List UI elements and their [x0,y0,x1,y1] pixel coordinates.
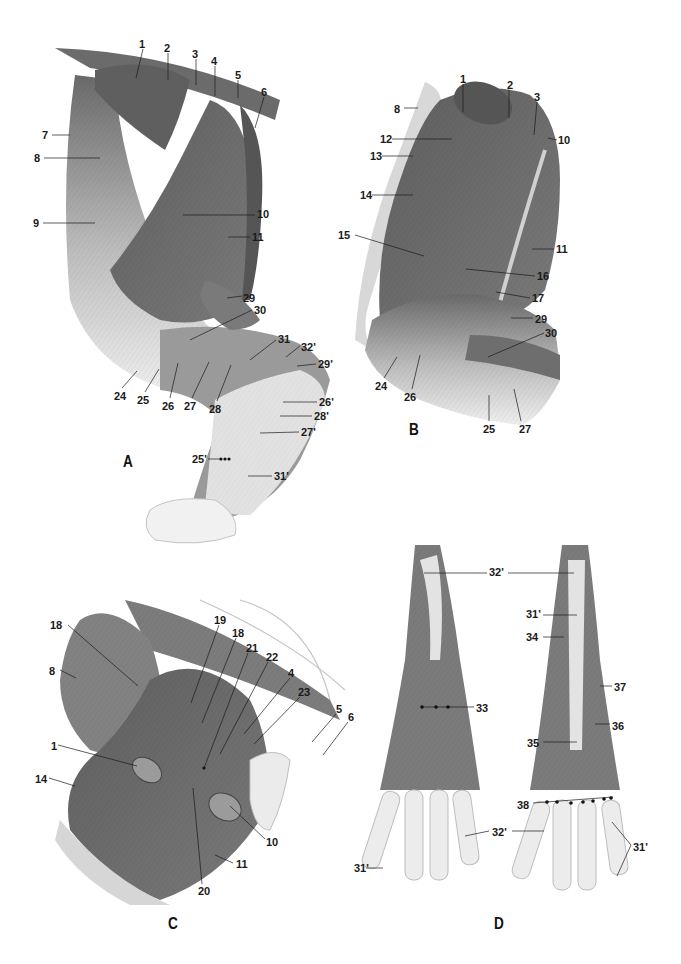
label-panel-a-6: 6 [261,86,267,98]
label-panel-b-13: 13 [370,150,382,162]
label-panel-a-9: 9 [33,217,39,229]
label-panel-d-36: 36 [612,720,624,732]
label-panel-a-31p: 31' [274,470,289,482]
label-panel-d-38: 38 [517,799,529,811]
label-panel-a-5: 5 [235,69,241,81]
panel-letter-b: B [409,420,419,440]
label-panel-c-18: 18 [50,619,62,631]
label-panel-a-7: 7 [42,129,48,141]
label-panel-a-25p: 25' [192,453,207,465]
label-panel-c-21: 21 [246,642,258,654]
label-panel-c-14: 14 [35,773,47,785]
panel-letter-d: D [494,914,504,934]
panel-d-illustration [360,545,629,890]
label-panel-c-5: 5 [336,703,342,715]
label-panel-b-26: 26 [404,391,416,403]
label-panel-a-31: 31 [278,333,290,345]
label-panel-a-26: 26 [162,400,174,412]
label-panel-c-22: 22 [266,651,278,663]
label-panel-d-31p: 31' [633,841,648,853]
panel-letter-a: A [123,452,133,472]
label-panel-b-17: 17 [532,292,544,304]
label-panel-a-30: 30 [254,304,266,316]
label-panel-b-29: 29 [535,313,547,325]
label-panel-b-30: 30 [545,327,557,339]
label-panel-a-32p: 32' [301,341,316,353]
label-panel-a-29: 29 [243,292,255,304]
label-panel-c-1: 1 [51,740,57,752]
label-panel-b-24: 24 [375,380,387,392]
label-panel-a-24: 24 [114,390,126,402]
muscle-illustrations [0,0,681,964]
label-panel-a-8: 8 [34,152,40,164]
label-panel-d-32p: 32' [489,566,504,578]
label-panel-a-1: 1 [139,38,145,50]
label-panel-c-4: 4 [288,667,294,679]
anatomical-figure: 123456789101129303132'29'242526272826'28… [0,0,681,964]
label-panel-d-31p: 31' [354,862,369,874]
label-panel-a-11: 11 [252,231,264,243]
label-panel-a-28: 28 [209,403,221,415]
label-panel-b-11: 11 [556,243,568,255]
label-panel-b-1: 1 [460,73,466,85]
label-panel-c-23: 23 [298,686,310,698]
label-panel-c-18: 18 [232,627,244,639]
label-panel-a-4: 4 [211,55,217,67]
label-panel-b-15: 15 [338,229,350,241]
label-panel-c-10: 10 [266,836,278,848]
label-panel-c-20: 20 [198,885,210,897]
label-panel-a-27: 27 [184,400,196,412]
label-panel-c-19: 19 [214,614,226,626]
label-panel-b-16: 16 [537,270,549,282]
label-panel-d-37: 37 [614,681,626,693]
label-panel-b-25: 25 [483,423,495,435]
label-panel-a-10: 10 [257,208,269,220]
label-panel-a-3: 3 [192,48,198,60]
label-panel-c-6: 6 [348,711,354,723]
label-panel-d-33: 33 [476,702,488,714]
label-panel-c-11: 11 [236,858,248,870]
label-panel-a-28p: 28' [314,410,329,422]
label-panel-a-25: 25 [137,394,149,406]
label-panel-b-2: 2 [507,79,513,91]
label-panel-a-26p: 26' [319,396,334,408]
label-panel-d-32p: 32' [492,826,507,838]
label-panel-c-8: 8 [49,665,55,677]
panel-b-illustration [355,74,560,425]
label-panel-d-34: 34 [526,631,538,643]
label-panel-b-3: 3 [534,91,540,103]
label-panel-b-12: 12 [380,133,392,145]
label-panel-a-2: 2 [164,42,170,54]
label-panel-b-8: 8 [394,103,400,115]
label-panel-d-31p: 31' [526,608,541,620]
label-panel-d-35: 35 [527,737,539,749]
label-panel-a-29p: 29' [318,358,333,370]
label-panel-a-27p: 27' [301,426,316,438]
label-panel-b-14: 14 [360,189,372,201]
panel-letter-c: C [168,914,178,934]
label-panel-b-10: 10 [558,134,570,146]
label-panel-b-27: 27 [519,423,531,435]
panel-a-illustration [55,48,330,543]
